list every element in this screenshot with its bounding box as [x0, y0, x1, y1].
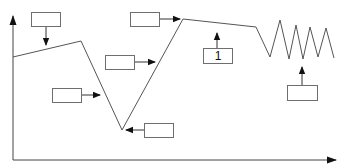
label-box-f: [144, 123, 174, 138]
label-box-d: 1: [203, 48, 233, 64]
label-box-c: [105, 55, 135, 70]
label-box-b: [130, 12, 160, 27]
label-box-g: [287, 85, 318, 101]
data-line: [13, 19, 334, 130]
label-box-e: [52, 88, 82, 103]
label-box-a: [31, 12, 61, 27]
